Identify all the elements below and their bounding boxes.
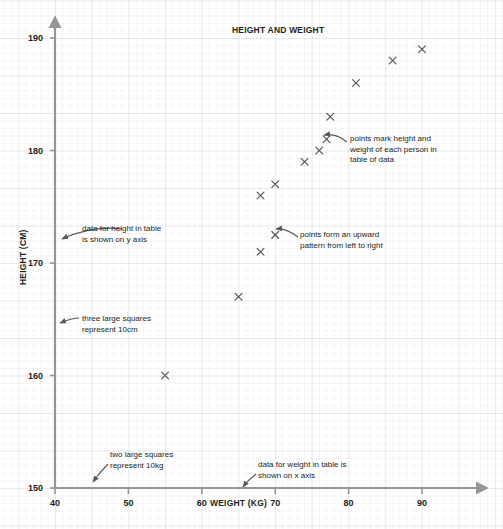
annotation-points-meaning-note: points mark height and weight of each pe… <box>350 134 437 166</box>
data-point-marker <box>419 46 426 53</box>
axis-lines <box>55 24 480 488</box>
annotation-height-axis-note: data for height in table is shown on y a… <box>82 224 161 245</box>
data-point-markers <box>162 46 426 379</box>
x-axis-tick-label: 70 <box>260 498 290 508</box>
y-axis-tick-label: 170 <box>17 258 43 268</box>
annotation-weight-axis-note: data for weight in table is shown on x a… <box>258 460 347 481</box>
data-point-marker <box>327 113 334 120</box>
x-axis-tick-label: 40 <box>40 498 70 508</box>
chart-canvas <box>0 0 503 529</box>
data-point-marker <box>235 293 242 300</box>
annotation-arrow <box>276 229 298 237</box>
data-point-marker <box>353 80 360 87</box>
data-point-marker <box>272 231 279 238</box>
data-point-marker <box>257 192 264 199</box>
data-point-marker <box>316 147 323 154</box>
chart-title: HEIGHT AND WEIGHT <box>232 25 324 35</box>
x-axis-tick-label: 90 <box>407 498 437 508</box>
data-point-marker <box>323 136 330 143</box>
x-axis-tick-label: 50 <box>113 498 143 508</box>
annotation-upward-pattern-note: points form an upward pattern from left … <box>300 230 383 251</box>
annotation-arrows <box>60 135 347 487</box>
x-axis-tick-label: 60 <box>187 498 217 508</box>
annotation-height-grid-note: three large squares represent 10cm <box>82 314 151 335</box>
data-point-marker <box>389 57 396 64</box>
annotation-weight-grid-note: two large squares represent 10kg <box>110 450 173 471</box>
data-point-marker <box>257 248 264 255</box>
x-axis-tick-label: 80 <box>334 498 364 508</box>
y-axis-tick-label: 190 <box>17 33 43 43</box>
y-axis-tick-label: 150 <box>17 483 43 493</box>
data-point-marker <box>162 372 169 379</box>
data-point-marker <box>301 158 308 165</box>
scatter-chart: HEIGHT AND WEIGHT HEIGHT (CM) WEIGHT (KG… <box>0 0 503 529</box>
annotation-arrow <box>243 474 256 487</box>
annotation-arrow <box>60 318 79 323</box>
y-axis-tick-label: 180 <box>17 146 43 156</box>
annotation-arrow <box>93 464 108 482</box>
data-point-marker <box>272 181 279 188</box>
y-axis-tick-label: 160 <box>17 371 43 381</box>
x-axis-title: WEIGHT (KG) <box>210 498 267 508</box>
